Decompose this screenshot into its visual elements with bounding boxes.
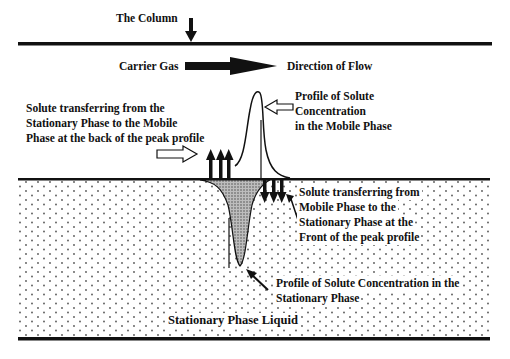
carrier-gas-label: Carrier Gas — [119, 59, 179, 74]
upward-transfer-arrows-icon — [206, 149, 234, 179]
mobile-profile-hollow-arrow-icon — [265, 100, 293, 114]
direction-of-flow-label: Direction of Flow — [287, 59, 372, 74]
flow-direction-arrow-icon — [185, 57, 277, 75]
column-pointer-arrow-icon — [185, 18, 197, 42]
chromatography-diagram — [0, 0, 510, 359]
column-top-wall — [18, 42, 492, 46]
downward-transfer-arrows-icon — [260, 180, 287, 203]
stationary-liquid-label: Stationary Phase Liquid — [166, 313, 300, 328]
back-transfer-hollow-arrow-icon — [157, 146, 197, 162]
column-bottom-wall — [18, 337, 490, 341]
column-label: The Column — [116, 11, 178, 26]
